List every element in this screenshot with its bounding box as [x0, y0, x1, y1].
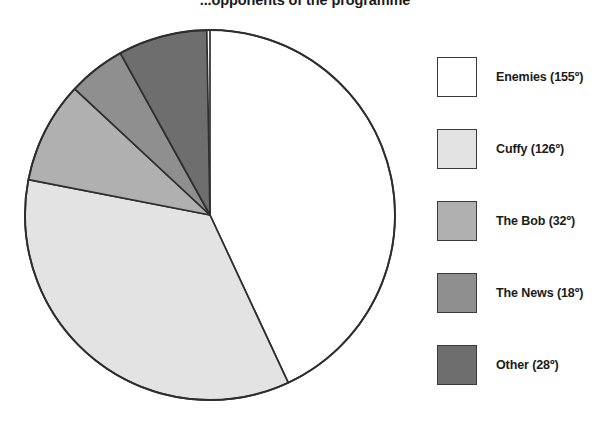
- legend-swatch: [437, 345, 477, 385]
- legend-item[interactable]: Enemies (155º): [437, 56, 610, 98]
- chart-title: ...opponents of the programme: [0, 0, 610, 13]
- legend-item[interactable]: Cuffy (126º): [437, 128, 610, 170]
- legend-label: Cuffy (126º): [496, 142, 564, 156]
- pie-plot-area: [18, 14, 418, 424]
- legend-label: The Bob (32º): [496, 214, 575, 228]
- legend-label: The News (18º): [496, 286, 583, 300]
- legend-swatch: [437, 201, 477, 241]
- legend-item[interactable]: The Bob (32º): [437, 200, 610, 242]
- legend-label: Enemies (155º): [496, 70, 583, 84]
- pie-chart-figure: ...opponents of the programme Enemies (1…: [0, 0, 610, 429]
- legend-item[interactable]: Other (28º): [437, 344, 610, 386]
- legend-swatch: [437, 129, 477, 169]
- pie-slice-group: [25, 30, 395, 400]
- chart-legend: Enemies (155º)Cuffy (126º)The Bob (32º)T…: [437, 56, 610, 386]
- legend-swatch: [437, 273, 477, 313]
- legend-item[interactable]: The News (18º): [437, 272, 610, 314]
- legend-swatch: [437, 57, 477, 97]
- legend-label: Other (28º): [496, 358, 559, 372]
- pie-svg: [18, 14, 418, 424]
